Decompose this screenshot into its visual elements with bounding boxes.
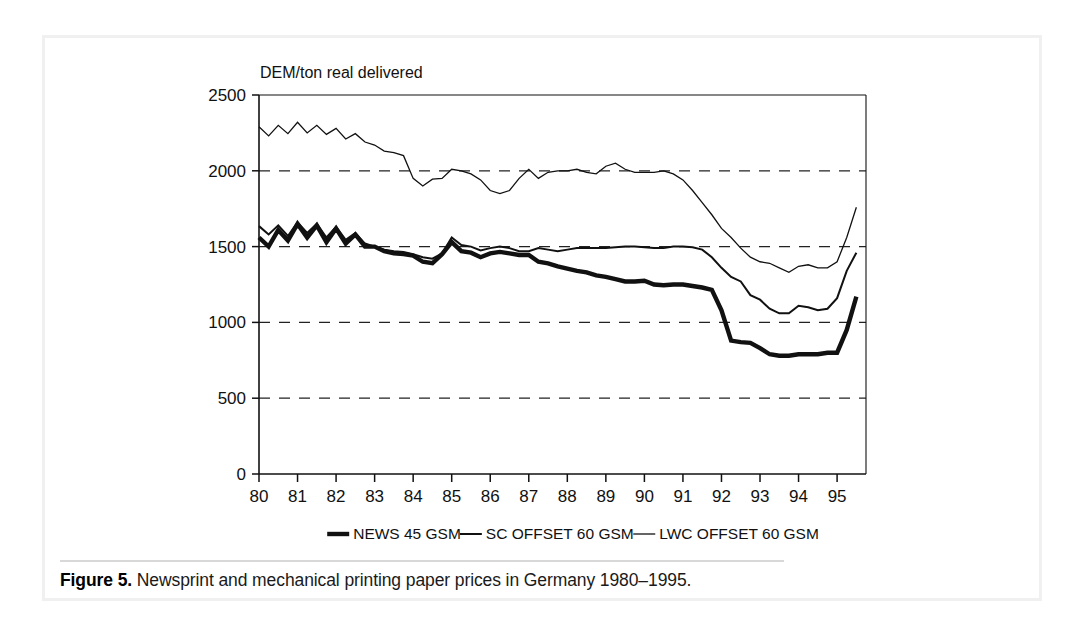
figure-caption-text: Newsprint and mechanical printing paper …	[137, 570, 692, 590]
x-tick-label: 95	[828, 487, 847, 506]
x-tick-label: 84	[404, 487, 423, 506]
x-tick-label: 93	[751, 487, 770, 506]
x-tick-label: 88	[558, 487, 577, 506]
x-tick-label: 82	[327, 487, 346, 506]
x-tick-label: 86	[481, 487, 500, 506]
y-tick-label: 0	[237, 465, 246, 484]
figure-caption: Figure 5. Newsprint and mechanical print…	[60, 570, 1000, 591]
x-tick-label: 87	[519, 487, 538, 506]
legend-label-news-45-gsm: NEWS 45 GSM	[353, 525, 461, 542]
x-tick-label: 89	[596, 487, 615, 506]
y-axis-ticks	[252, 95, 259, 474]
x-tick-label: 90	[635, 487, 654, 506]
axes	[259, 95, 866, 474]
x-axis-ticks	[259, 474, 837, 482]
gridlines	[259, 171, 866, 398]
x-tick-label: 83	[365, 487, 384, 506]
y-tick-label: 2000	[208, 162, 246, 181]
legend-label-sc-offset-60-gsm: SC OFFSET 60 GSM	[486, 525, 634, 542]
chart-legend: NEWS 45 GSMSC OFFSET 60 GSMLWC OFFSET 60…	[327, 525, 819, 542]
legend-label-lwc-offset-60-gsm: LWC OFFSET 60 GSM	[659, 525, 819, 542]
caption-divider	[60, 560, 784, 562]
figure-caption-label: Figure 5.	[60, 570, 132, 590]
price-line-chart: 05001000150020002500 8081828384858687888…	[0, 0, 1086, 637]
x-tick-label: 81	[288, 487, 307, 506]
y-axis-tick-labels: 05001000150020002500	[208, 86, 246, 484]
x-tick-label: 85	[442, 487, 461, 506]
x-tick-label: 92	[712, 487, 731, 506]
figure-root: 05001000150020002500 8081828384858687888…	[0, 0, 1086, 637]
x-axis-tick-labels: 80818283848586878889909192939495	[250, 487, 847, 506]
chart-area: 05001000150020002500 8081828384858687888…	[0, 0, 1086, 637]
y-tick-label: 500	[218, 389, 246, 408]
y-axis-title: DEM/ton real delivered	[260, 64, 423, 81]
y-tick-label: 1500	[208, 238, 246, 257]
x-tick-label: 94	[789, 487, 808, 506]
y-tick-label: 2500	[208, 86, 246, 105]
data-series	[259, 122, 856, 355]
x-tick-label: 80	[250, 487, 269, 506]
x-tick-label: 91	[673, 487, 692, 506]
y-tick-label: 1000	[208, 313, 246, 332]
series-line-lwc-offset-60-gsm	[259, 122, 856, 272]
series-line-news-45-gsm	[259, 224, 856, 356]
